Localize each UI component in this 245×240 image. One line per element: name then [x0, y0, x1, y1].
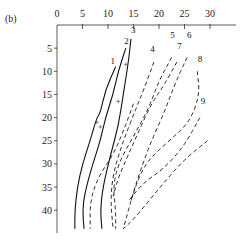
curve-label-3: 3: [131, 25, 136, 35]
curve-label-7: 7: [177, 41, 182, 51]
x-tick-label: 10: [103, 8, 113, 19]
series-group: [75, 39, 208, 229]
y-tick-label: 35: [42, 182, 52, 193]
x-tick-label: 5: [80, 8, 85, 19]
y-tick-label: 10: [42, 66, 52, 77]
x-tick-label: 15: [129, 8, 139, 19]
y-tick-label: 5: [47, 43, 52, 54]
depth-profile-chart: (b) 051015202530510152025303540 12345768…: [0, 0, 245, 240]
y-tick-label: 40: [42, 205, 52, 216]
y-tick-label: 15: [42, 89, 52, 100]
y-tick-label: 30: [42, 158, 52, 169]
axes: 051015202530510152025303540: [42, 8, 236, 233]
panel-label: (b): [5, 13, 17, 25]
curve-7: [113, 62, 177, 196]
y-tick-label: 20: [42, 112, 52, 123]
x-tick-label: 25: [180, 8, 190, 19]
curve-2: [83, 48, 126, 229]
curve-label-1: 1: [111, 56, 116, 66]
y-tick-label: 25: [42, 135, 52, 146]
curve-6: [123, 57, 187, 228]
curve-label-4: 4: [150, 44, 155, 54]
curve-label-8: 8: [198, 54, 203, 64]
curve-label-6: 6: [187, 30, 192, 40]
curve-label-2: 2: [124, 36, 129, 46]
x-tick-label: 20: [154, 8, 164, 19]
x-tick-label: 30: [205, 8, 215, 19]
curve-label-9: 9: [201, 96, 206, 106]
plus-marker: [98, 125, 102, 129]
x-tick-label: 0: [55, 8, 60, 19]
curve-label-5: 5: [170, 30, 175, 40]
curve-1: [75, 67, 116, 229]
plus-marker: [116, 99, 120, 103]
